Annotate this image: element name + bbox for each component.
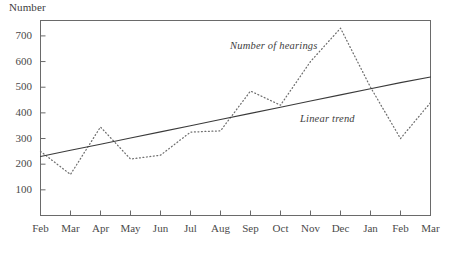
y-tick-label-700: 700 [4,29,32,41]
series-line-linear-trend [41,77,431,157]
x-tick-label-apr-2: Apr [92,222,109,234]
y-tick-label-600: 600 [4,55,32,67]
plot-area [0,0,451,256]
chart-container: Number 100200300400500600700 FebMarAprMa… [0,0,451,256]
y-tick-label-500: 500 [4,80,32,92]
y-tick-label-300: 300 [4,132,32,144]
x-tick-label-nov-9: Nov [301,222,320,234]
x-tick-label-sep-7: Sep [242,222,259,234]
x-tick-label-aug-6: Aug [211,222,230,234]
annotation-linear-trend: Linear trend [300,113,355,124]
x-tick-label-jun-4: Jun [153,222,168,234]
x-tick-label-feb-12: Feb [392,222,409,234]
x-tick-label-jul-5: Jul [184,222,197,234]
x-tick-label-mar-1: Mar [61,222,79,234]
x-tick-label-may-3: May [120,222,140,234]
x-tick-label-mar-13: Mar [421,222,439,234]
y-tick-label-100: 100 [4,183,32,195]
x-tick-label-oct-8: Oct [273,222,289,234]
y-tick-label-200: 200 [4,157,32,169]
x-tick-label-dec-10: Dec [332,222,350,234]
x-tick-label-jan-11: Jan [363,222,378,234]
y-tick-label-400: 400 [4,106,32,118]
annotation-number-of-hearings: Number of hearings [230,40,318,51]
x-tick-label-feb-0: Feb [32,222,49,234]
